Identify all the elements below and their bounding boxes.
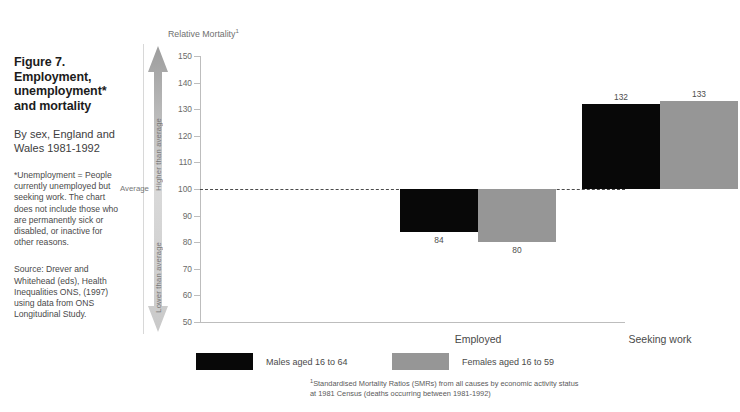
y-axis-tick-label: 60 [166, 290, 192, 300]
bar-value-label: 84 [400, 235, 478, 245]
chart-axis-title: Relative Mortality1 [168, 28, 239, 39]
bar-group: 8480132133 [200, 56, 625, 322]
y-axis-tick-label: 120 [166, 131, 192, 141]
gauge-label-average: Average [120, 184, 149, 193]
y-axis-tick-label: 110 [166, 157, 192, 167]
figure-footnote-unemployment: *Unemployment = People currently unemplo… [14, 170, 136, 248]
legend-swatch-male [196, 353, 253, 370]
y-axis-tick-labels: 1501401301201101009080706050 [164, 56, 192, 323]
y-axis-tick-label: 50 [166, 317, 192, 327]
bar-seeking-work-female[interactable] [660, 101, 738, 189]
chart-footnote: 1Standardised Mortality Ratios (SMRs) fr… [310, 377, 640, 399]
legend-label: Males aged 16 to 64 [266, 357, 348, 367]
x-axis-line [200, 322, 625, 323]
y-axis-tick-label: 80 [166, 237, 192, 247]
figure-text-column: Figure 7. Employment, unemployment* and … [14, 55, 136, 320]
y-axis-tick-label: 70 [166, 264, 192, 274]
bar-value-label: 133 [660, 89, 738, 99]
legend-label: Females aged 16 to 59 [462, 357, 554, 367]
bar-employed-male[interactable] [400, 189, 478, 232]
y-axis-tick [194, 322, 200, 323]
chart-axis-title-text: Relative Mortality [168, 29, 235, 39]
figure-subtitle: By sex, England and Wales 1981-1992 [14, 127, 136, 155]
y-axis-tick-label: 140 [166, 78, 192, 88]
gauge-label-lower: Lower than average [154, 242, 163, 313]
y-axis-tick-label: 90 [166, 211, 192, 221]
y-axis-tick-label: 100 [166, 184, 192, 194]
x-axis-label-employed: Employed [398, 333, 558, 345]
legend-swatch-female [392, 353, 449, 370]
bar-employed-female[interactable] [478, 189, 556, 242]
bar-value-label: 132 [582, 92, 660, 102]
bar-value-label: 80 [478, 245, 556, 255]
y-axis-tick-label: 130 [166, 104, 192, 114]
bar-seeking-work-male[interactable] [582, 104, 660, 189]
figure-title: Figure 7. Employment, unemployment* and … [14, 55, 136, 113]
chart-footnote-text: Standardised Mortality Ratios (SMRs) fro… [310, 379, 578, 398]
chart-axis-title-superscript: 1 [235, 28, 238, 34]
y-axis-tick-label: 150 [166, 51, 192, 61]
gauge-label-higher: Higher than average [154, 118, 163, 191]
figure-source: Source: Drever and Whitehead (eds), Heal… [14, 264, 136, 320]
x-axis-label-seeking-work: Seeking work [580, 333, 740, 345]
legend-item-female[interactable]: Females aged 16 to 59 [392, 353, 554, 370]
legend-item-male[interactable]: Males aged 16 to 64 [196, 353, 348, 370]
